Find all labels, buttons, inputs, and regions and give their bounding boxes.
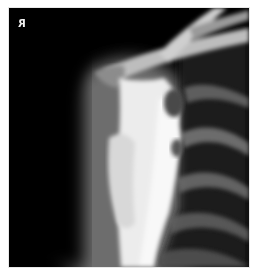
xray-anatomy bbox=[9, 8, 249, 267]
xray-image: R bbox=[9, 8, 249, 267]
glenoid-shadow bbox=[164, 89, 184, 117]
side-marker-label: R bbox=[18, 19, 26, 29]
